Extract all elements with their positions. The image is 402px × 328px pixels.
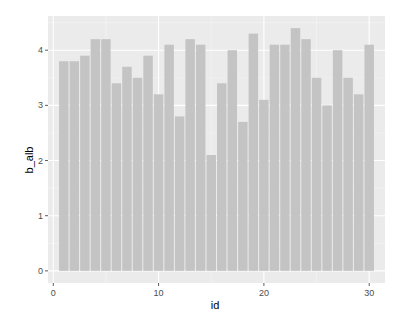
bar	[143, 56, 152, 271]
bar	[91, 39, 100, 271]
bar	[122, 67, 131, 271]
y-tick-label: 4	[38, 45, 43, 55]
bar	[206, 155, 215, 271]
x-tick-label: 20	[259, 288, 269, 298]
y-tick-label: 0	[38, 266, 43, 276]
x-tick-label: 10	[154, 288, 164, 298]
x-axis-title: id	[211, 299, 220, 311]
bar	[70, 61, 79, 271]
bar	[217, 83, 226, 271]
bar	[270, 45, 279, 271]
bar	[354, 94, 363, 271]
bar	[228, 50, 237, 271]
bar	[312, 78, 321, 271]
bar	[112, 83, 121, 271]
bar	[291, 28, 300, 271]
bar	[259, 100, 268, 271]
bar	[59, 61, 68, 271]
y-tick-label: 2	[38, 156, 43, 166]
y-axis-title: b_alb	[23, 147, 35, 174]
bar	[154, 94, 163, 271]
bar	[343, 78, 352, 271]
bar	[301, 39, 310, 271]
y-tick-label: 1	[38, 211, 43, 221]
bar	[101, 39, 110, 271]
x-axis: 0102030	[51, 283, 374, 298]
bar	[280, 45, 289, 271]
x-tick-label: 0	[51, 288, 56, 298]
y-tick-label: 3	[38, 100, 43, 110]
x-tick-label: 30	[364, 288, 374, 298]
bar	[249, 34, 258, 271]
bar	[175, 116, 184, 270]
bar	[164, 45, 173, 271]
bar	[185, 39, 194, 271]
y-axis: 01234	[38, 45, 48, 276]
bar	[80, 56, 89, 271]
bar	[196, 45, 205, 271]
bar	[333, 50, 342, 271]
bar	[238, 122, 247, 271]
bar	[322, 105, 331, 270]
bar-chart: 01234 0102030 id b_alb	[0, 0, 402, 328]
bar	[364, 45, 373, 271]
bar	[133, 78, 142, 271]
